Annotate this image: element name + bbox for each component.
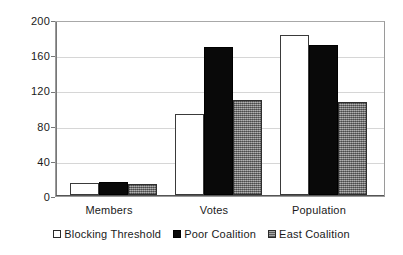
bar-group-votes bbox=[175, 20, 270, 195]
bar-population-poor-coalition[interactable] bbox=[309, 45, 338, 195]
bar-members-poor-coalition[interactable] bbox=[99, 182, 128, 195]
bar-group-population bbox=[280, 20, 375, 195]
legend-item-east-coalition[interactable]: East Coalition bbox=[268, 228, 350, 240]
legend-label-blocking-threshold: Blocking Threshold bbox=[64, 228, 161, 240]
y-tick-label-200: 200 bbox=[8, 16, 50, 27]
y-axis-line bbox=[56, 22, 57, 196]
bar-population-blocking-threshold[interactable] bbox=[280, 35, 309, 195]
bar-votes-east-coalition[interactable] bbox=[233, 100, 262, 195]
bar-votes-poor-coalition[interactable] bbox=[204, 47, 233, 195]
legend-label-poor-coalition: Poor Coalition bbox=[184, 228, 256, 240]
bar-chart: 200 160 120 80 40 0 bbox=[0, 0, 403, 255]
legend-swatch-icon-poor-coalition bbox=[173, 230, 181, 238]
legend-item-poor-coalition[interactable]: Poor Coalition bbox=[173, 228, 256, 240]
y-tick-label-40: 40 bbox=[8, 157, 50, 168]
x-axis-line bbox=[56, 195, 384, 196]
bar-group-members bbox=[70, 20, 165, 195]
legend-item-blocking-threshold[interactable]: Blocking Threshold bbox=[53, 228, 161, 240]
y-tick-label-120: 120 bbox=[8, 86, 50, 97]
legend-swatch-icon-blocking-threshold bbox=[53, 230, 61, 238]
y-tick-label-160: 160 bbox=[8, 51, 50, 62]
legend-label-east-coalition: East Coalition bbox=[279, 228, 350, 240]
y-tick-mark-0 bbox=[51, 197, 55, 198]
y-tick-label-0: 0 bbox=[8, 192, 50, 203]
bar-members-blocking-threshold[interactable] bbox=[70, 183, 99, 195]
chart-legend: Blocking Threshold Poor Coalition East C… bbox=[0, 228, 403, 240]
bar-members-east-coalition[interactable] bbox=[128, 184, 157, 195]
bar-votes-blocking-threshold[interactable] bbox=[175, 114, 204, 195]
x-category-label-population: Population bbox=[239, 204, 399, 216]
y-tick-label-80: 80 bbox=[8, 122, 50, 133]
plot-area bbox=[55, 21, 385, 197]
bar-population-east-coalition[interactable] bbox=[338, 102, 367, 195]
legend-swatch-icon-east-coalition bbox=[268, 230, 276, 238]
